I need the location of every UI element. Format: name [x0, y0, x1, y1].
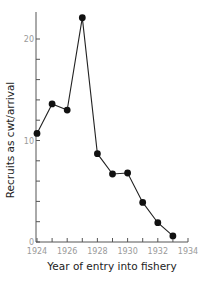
- tick-labels: 01020192419261928193019321934: [24, 35, 198, 256]
- x-tick-label: 1930: [117, 247, 137, 256]
- x-axis-title: Year of entry into fishery: [46, 260, 176, 272]
- data-point: [79, 14, 86, 21]
- data-point: [64, 107, 71, 114]
- data-point: [170, 233, 177, 240]
- x-tick-label: 1934: [178, 247, 198, 256]
- y-tick-label: 0: [29, 238, 34, 247]
- y-tick-label: 10: [24, 137, 34, 146]
- data-line: [37, 18, 173, 236]
- data-point: [49, 101, 56, 108]
- data-point: [109, 171, 116, 178]
- x-tick-label: 1932: [148, 247, 168, 256]
- x-tick-label: 1928: [87, 247, 107, 256]
- data-point: [124, 170, 131, 177]
- data-point: [139, 199, 146, 206]
- data-point: [154, 219, 161, 226]
- axis-ticks: [36, 39, 188, 242]
- x-tick-label: 1926: [57, 247, 77, 256]
- data-point: [94, 150, 101, 157]
- x-tick-label: 1924: [27, 247, 47, 256]
- data-point: [34, 130, 41, 137]
- axes: [36, 12, 188, 242]
- data-points: [34, 14, 177, 239]
- y-tick-label: 20: [24, 35, 34, 44]
- y-axis-title: Recruits as cwt/arrival: [4, 82, 16, 199]
- line-chart: 01020192419261928193019321934 Recruits a…: [0, 0, 208, 283]
